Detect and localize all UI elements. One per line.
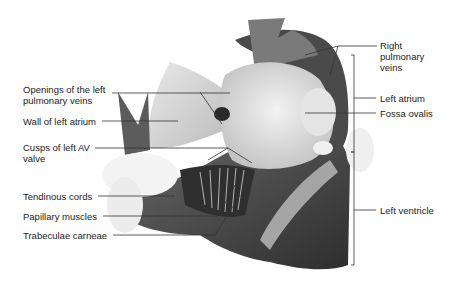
label-tendinous-cords: Tendinous cords (23, 191, 92, 202)
label-line: Openings of the left (23, 84, 105, 95)
label-line: pulmonary veins (23, 95, 105, 106)
label-trabeculae-carneae: Trabeculae carneae (23, 230, 107, 241)
label-left-atrium: Left atrium (380, 93, 425, 104)
glove-right (346, 128, 374, 172)
fossa-ovalis-region (300, 88, 336, 136)
label-wall-of-left-atrium: Wall of left atrium (23, 116, 96, 127)
label-right-pulmonary-veins: Right pulmonary veins (380, 40, 424, 73)
label-papillary-muscles: Papillary muscles (23, 211, 97, 222)
pulmonary-vein-openings (214, 107, 230, 121)
label-line: pulmonary (380, 51, 424, 62)
label-line: Cusps of left AV (23, 142, 90, 153)
label-cusps-left-av-valve: Cusps of left AV valve (23, 142, 90, 164)
label-left-ventricle: Left ventricle (380, 205, 434, 216)
anatomy-figure: Openings of the left pulmonary veins Wal… (0, 0, 455, 285)
atrial-wall-flap (149, 62, 225, 148)
label-line: valve (23, 153, 90, 164)
label-fossa-ovalis: Fossa ovalis (380, 108, 433, 119)
label-line: Right (380, 40, 424, 51)
left-dark-flap (118, 92, 150, 155)
label-line: veins (380, 62, 424, 73)
label-openings-left-pulmonary-veins: Openings of the left pulmonary veins (23, 84, 105, 106)
